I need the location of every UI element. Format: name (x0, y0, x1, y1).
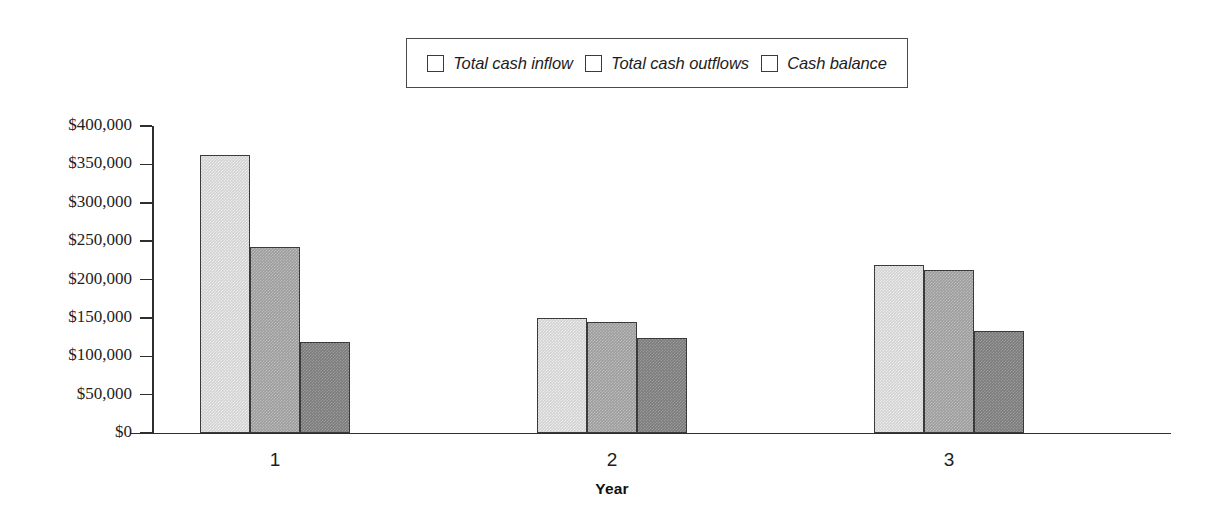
y-axis-tick-label: $250,000 (40, 230, 132, 250)
bar-cash-balance-year-2 (637, 338, 687, 433)
bar-total-cash-outflows-year-3 (924, 270, 974, 433)
x-axis-category-label: 2 (552, 449, 672, 471)
y-axis-tick-label: $100,000 (40, 345, 132, 365)
bar-total-cash-inflow-year-3 (874, 265, 924, 433)
y-axis-tick (140, 240, 152, 242)
bar-cash-balance-year-1 (300, 342, 350, 433)
bar-total-cash-inflow-year-1 (200, 155, 250, 433)
bar-total-cash-outflows-year-1 (250, 247, 300, 433)
bar-cash-balance-year-3 (974, 331, 1024, 433)
y-axis-tick-label: $300,000 (40, 192, 132, 212)
y-axis-tick (140, 432, 152, 434)
y-axis-tick (140, 125, 152, 127)
y-axis-line (152, 126, 154, 434)
y-axis-tick-label: $150,000 (40, 307, 132, 327)
x-axis-title: Year (412, 480, 812, 498)
y-axis-tick (140, 202, 152, 204)
y-axis-tick (140, 279, 152, 281)
bar-total-cash-outflows-year-2 (587, 322, 637, 433)
y-axis-tick (140, 394, 152, 396)
y-axis-tick-label: $400,000 (40, 115, 132, 135)
plot-area: $0$50,000$100,000$150,000$200,000$250,00… (0, 0, 1214, 529)
y-axis-tick-label: $200,000 (40, 269, 132, 289)
x-axis-category-label: 3 (889, 449, 1009, 471)
y-axis-tick-label: $50,000 (40, 384, 132, 404)
y-axis-tick (140, 317, 152, 319)
bar-total-cash-inflow-year-2 (537, 318, 587, 433)
bar-chart: Total cash inflow Total cash outflows Ca… (0, 0, 1214, 529)
x-axis-category-label: 1 (215, 449, 335, 471)
y-axis-tick (140, 164, 152, 166)
y-axis-tick-label: $0 (40, 422, 132, 442)
y-axis-tick (140, 356, 152, 358)
y-axis-tick-label: $350,000 (40, 153, 132, 173)
